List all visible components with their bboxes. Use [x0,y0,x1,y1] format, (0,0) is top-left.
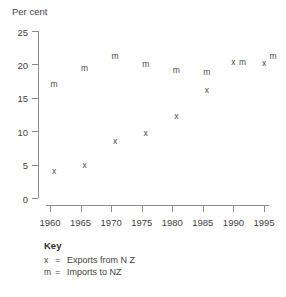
y-axis-title: Per cent [12,6,47,17]
legend-marker: m [44,267,55,277]
x-tick [142,205,143,212]
data-point-m: m [239,57,246,66]
legend-item: x=Exports from N Z [44,255,135,265]
x-tick [81,205,82,212]
data-point-m: m [173,65,180,74]
legend-rows: x=Exports from N Zm=Imports to NZ [44,255,135,277]
y-tick: 25 [32,31,38,32]
x-tick-label: 1990 [223,217,244,228]
y-tick-label: 15 [17,93,28,104]
x-tick [111,205,112,212]
chart-figure: Per cent 0510152025 19601965197019751980… [0,0,286,297]
data-point-m: m [50,80,57,89]
data-point-x: x [262,59,266,68]
y-tick: 5 [32,165,38,166]
legend-label: Imports to NZ [67,267,122,277]
legend-label: Exports from N Z [67,255,135,265]
x-tick-label: 1960 [39,217,60,228]
data-point-x: x [174,112,178,121]
legend-marker: x [44,255,55,265]
data-point-x: x [144,129,148,138]
legend-equals: = [55,267,67,277]
x-tick [264,205,265,212]
x-tick-label: 1985 [192,217,213,228]
data-point-x: x [52,167,56,176]
x-axis-line [46,205,269,206]
data-point-m: m [269,52,276,61]
legend-equals: = [55,255,67,265]
legend-item: m=Imports to NZ [44,267,135,277]
x-tick-label: 1970 [101,217,122,228]
plot-area: 0510152025 19601965197019751980198519901… [38,31,270,198]
x-tick [203,205,204,212]
y-tick-label: 0 [23,193,28,204]
x-tick-label: 1965 [70,217,91,228]
y-tick-label: 10 [17,126,28,137]
data-point-m: m [203,67,210,76]
y-tick: 10 [32,131,38,132]
legend-title: Key [44,240,135,251]
data-point-x: x [82,160,86,169]
x-tick [172,205,173,212]
data-point-m: m [112,51,119,60]
legend-key: Key x=Exports from N Zm=Imports to NZ [44,240,135,277]
x-tick-label: 1975 [131,217,152,228]
data-point-x: x [231,58,235,67]
y-tick: 15 [32,98,38,99]
x-tick [233,205,234,212]
y-tick-label: 5 [23,160,28,171]
y-tick: 20 [32,64,38,65]
data-point-m: m [142,59,149,68]
y-tick: 0 [32,198,38,199]
y-axis-line [38,31,39,198]
y-tick-label: 20 [17,59,28,70]
data-point-x: x [205,86,209,95]
x-tick-label: 1980 [162,217,183,228]
x-tick-label: 1995 [253,217,274,228]
data-point-x: x [113,137,117,146]
y-tick-label: 25 [17,26,28,37]
data-point-m: m [81,64,88,73]
x-tick [50,205,51,212]
